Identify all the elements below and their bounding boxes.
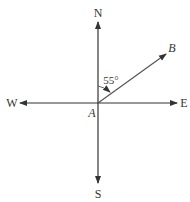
east-label: E (180, 96, 187, 110)
point-b-label: B (168, 41, 176, 55)
point-a-label: A (87, 106, 96, 120)
south-label: S (95, 187, 102, 201)
compass-diagram: N S E W A B 55° (0, 0, 190, 202)
west-label: W (6, 96, 18, 110)
north-label: N (94, 6, 103, 20)
angle-arc (98, 86, 110, 92)
angle-label: 55° (103, 74, 118, 86)
